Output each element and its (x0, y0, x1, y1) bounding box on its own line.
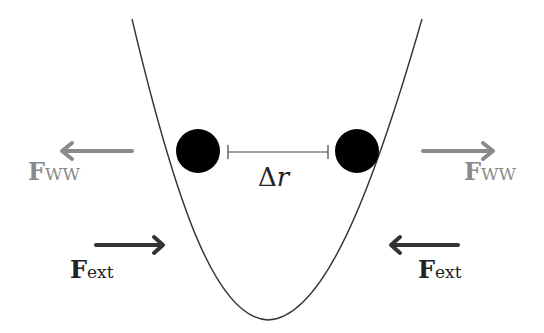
force-symbol: F (70, 255, 87, 284)
label-ext-right: Fext (418, 258, 462, 282)
delta-r-label: Δr (258, 164, 289, 190)
delta-symbol: Δ (258, 162, 277, 192)
force-subscript: WW (45, 164, 80, 184)
force-symbol: F (28, 157, 45, 186)
arrow-ext-left (96, 237, 163, 253)
force-subscript: ext (435, 262, 461, 282)
particle-right (335, 129, 379, 173)
force-symbol: F (464, 157, 481, 186)
arrow-ext-right (391, 237, 458, 253)
label-ext-left: Fext (70, 258, 114, 282)
r-variable: r (277, 162, 289, 192)
force-symbol: F (418, 255, 435, 284)
force-subscript: ext (87, 262, 113, 282)
arrow-ww-right (423, 143, 493, 159)
force-subscript: WW (481, 164, 516, 184)
label-ww-right: FWW (464, 160, 516, 184)
arrow-ww-left (62, 143, 132, 159)
separation-bar (228, 145, 328, 159)
label-ww-left: FWW (28, 160, 80, 184)
particle-left (176, 129, 220, 173)
